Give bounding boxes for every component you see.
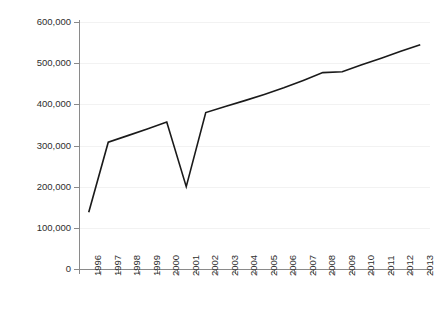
- data-series-layer: [0, 0, 441, 316]
- line-chart: 0100,000200,000300,000400,000500,000600,…: [0, 0, 441, 316]
- data-line-series-1: [89, 45, 421, 213]
